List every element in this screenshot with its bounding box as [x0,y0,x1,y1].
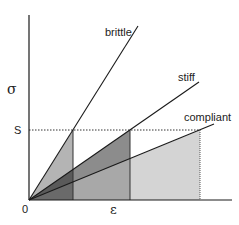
brittle-label: brittle [105,26,132,38]
y-axis-label: σ [7,81,17,97]
origin-label: 0 [22,203,28,215]
stress-strain-diagram: σ S 0 ε brittle stiff compliant [0,0,239,225]
x-axis-label: ε [110,202,117,217]
compliant-label: compliant [184,111,231,123]
stress-level-label: S [14,124,21,136]
stiff-label: stiff [178,71,196,83]
